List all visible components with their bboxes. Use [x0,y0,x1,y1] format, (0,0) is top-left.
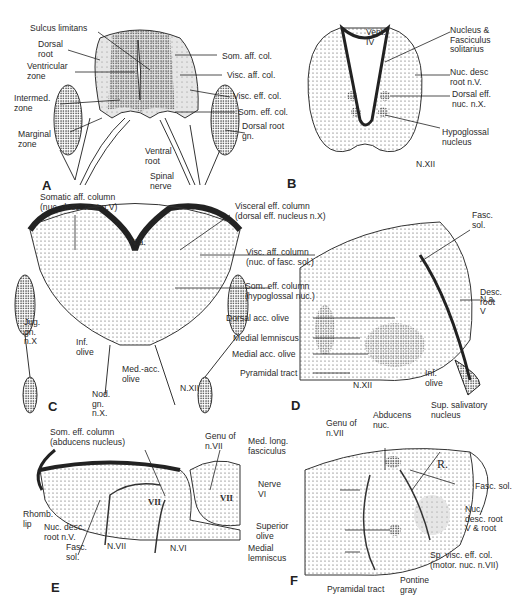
label-medial-acc-olive: Medial acc. olive [232,350,296,360]
label-nod-gn-nx: Nod. gn. n.X. [92,390,110,419]
label-dorsal-eff-nuc-nx: Dorsal eff. nuc. n.X. [452,90,491,109]
label-marginal-zone: Marginal zone [18,130,51,149]
label-ventricular-zone: Ventricular zone [27,62,68,81]
label-genu-n-vii-e: Genu of n.VII [205,432,236,451]
label-som-aff-col: Som. aff. col. [222,52,272,62]
label-vii-right: VII [220,494,233,504]
panel-letter-b: B [287,176,296,191]
label-visceral-eff-column: Visceral eff. column (dorsal eff. nucleu… [235,202,326,221]
label-nucleus-fasciculus-solitarius: Nucleus & Fasciculus solitarius [450,26,491,55]
label-fasc-sol-e: Fasc. sol. [66,543,87,562]
label-sup-salivatory-nucleus: Sup. salivatory nucleus [431,401,487,420]
label-med-acc-olive: Med.-acc. olive [122,365,160,384]
label-hypoglossal-nucleus: Hypoglossal nucleus [442,128,489,147]
label-genu-n-vii-f: Genu of n.VII [326,419,357,438]
label-nuc-desc-root-v-root: Nuc. desc. root V & root [465,505,503,534]
label-pyramidal-tract-d: Pyramidal tract [240,369,297,379]
label-superior-olive: Superior olive [256,522,288,541]
label-pontine-gray: Pontine gray [400,576,429,595]
label-n-xii-c: N.XII [180,384,199,394]
label-abducens-nuc: Abducens nuc. [373,411,411,430]
label-visc-aff-column: Visc. aff. column (nuc. of fasc. sol.) [246,248,314,267]
label-n-vi-e: N.VI [170,544,187,554]
label-desc-root-v: Desc. root V [480,288,502,317]
label-spinal-nerve: Spinal nerve [150,172,174,191]
label-r: R. [437,460,448,470]
label-somatic-aff-column: Somatic aff. column (nuc. desc. root n.V… [40,193,117,212]
label-ventral-root: Ventral root [145,147,172,166]
panel-letter-a: A [42,178,51,193]
panel-d-drawing [300,222,480,395]
label-n-xii-d: N.XII [353,381,372,391]
panel-b-drawing [308,28,422,152]
label-n-vii-e: N.VII [107,542,126,552]
panel-letter-e: E [51,580,60,595]
label-med-long-fasciculus: Med. long. fasciculus [248,437,288,456]
label-vent-iv: Vent. IV [366,28,386,47]
panel-letter-f: F [290,573,298,588]
label-inf-olive-c: Inf. olive [76,338,94,357]
label-nuc-desc-root-nv: Nuc. desc root n.V. [450,68,488,87]
panel-letter-d: D [291,398,300,413]
label-visc-eff-col: Visc. eff. col. [233,92,281,102]
label-medial-lemniscus-d: Medial lemniscus [233,334,299,344]
label-sulcus-limitans: Sulcus limitans [30,24,87,34]
label-jug-gn-nx: Jug. gn. n.X [24,318,40,347]
label-intermed-zone: Intermed. zone [14,94,50,113]
label-pyramidal-tract-f: Pyramidal tract [327,585,384,595]
label-inf-olive-d: Inf. olive [425,369,443,388]
label-fasc-sol-d: Fasc. sol. [472,211,493,230]
label-dorsal-root: Dorsal root [38,40,63,59]
label-nuc-desc-root-nv-e: Nuc. desc. root n.V. [44,523,85,542]
label-sp-visc-eff-col: Sp. visc. eff. col. (motor. nuc. n.VII) [430,551,498,570]
label-n-a-c: N.a. [130,238,146,248]
label-som-eff-col: Som. eff. col. [238,108,288,118]
label-nerve-vi: Nerve VI [258,480,281,499]
label-som-eff-column-abducens: Som. eff. column (abducens nucleus) [50,428,125,447]
label-n-xii-b: N.XII [416,160,435,170]
label-visc-aff-col: Visc. aff. col. [227,71,275,81]
label-medial-lemniscus-f: Medial lemniscus [248,544,286,563]
label-dorsal-acc-olive: Dorsal acc. olive [226,314,289,324]
label-som-eff-column-hypoglossal: Som. eff. column (hypoglossal nuc.) [245,282,315,301]
label-vii-left: VII [148,498,161,508]
label-dorsal-root-gn: Dorsal root gn. [242,122,284,141]
panel-letter-c: C [48,399,57,414]
label-fasc-sol-f: Fasc. sol. [475,482,512,492]
